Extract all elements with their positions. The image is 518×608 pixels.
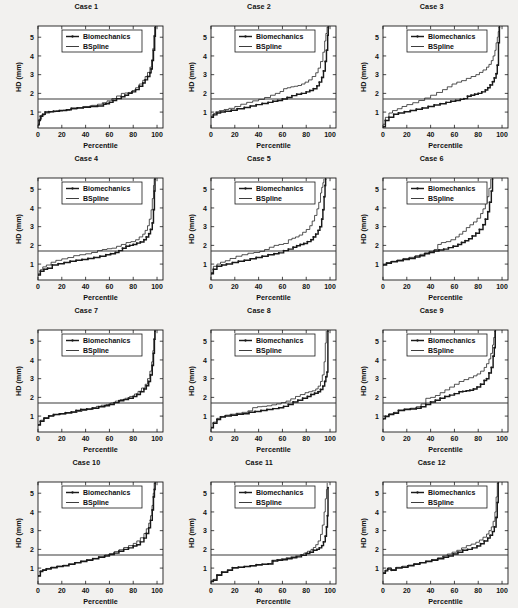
- y-tick-label: 3: [30, 375, 34, 382]
- series-marker: [323, 381, 325, 383]
- y-tick-label: 3: [30, 223, 34, 230]
- y-tick-label: 4: [203, 53, 207, 60]
- series-marker: [325, 49, 327, 51]
- legend-label: BSpline: [83, 43, 109, 51]
- series-marker: [255, 104, 257, 106]
- panel-title: Case 7: [0, 306, 173, 315]
- x-tick-label: 80: [129, 283, 137, 290]
- x-tick-label: 40: [254, 587, 262, 594]
- series-marker: [153, 209, 155, 211]
- legend-label: BSpline: [256, 195, 282, 203]
- series-marker: [497, 64, 499, 66]
- series-marker: [324, 535, 326, 537]
- series-marker: [150, 229, 152, 231]
- panel-title: Case 1: [0, 2, 173, 11]
- series-marker: [480, 543, 482, 545]
- series-marker: [323, 196, 325, 198]
- series-marker: [443, 556, 445, 558]
- y-tick-label: 4: [30, 509, 34, 516]
- y-tick-label: 2: [203, 394, 207, 401]
- series-marker: [148, 233, 150, 235]
- panel-title: Case 3: [345, 2, 518, 11]
- x-tick-label: 100: [151, 435, 163, 442]
- x-tick-label: 60: [278, 283, 286, 290]
- series-marker: [312, 88, 314, 90]
- series-marker: [224, 110, 226, 112]
- x-axis-label: Percentile: [83, 293, 117, 302]
- series-marker: [404, 111, 406, 113]
- series-marker: [124, 94, 126, 96]
- series-marker: [255, 257, 257, 259]
- series-marker: [326, 371, 328, 373]
- series-marker: [484, 540, 486, 542]
- series-marker: [325, 376, 327, 378]
- series-marker: [327, 26, 329, 28]
- x-tick-label: 20: [403, 283, 411, 290]
- series-marker: [319, 389, 321, 391]
- series-marker: [267, 254, 269, 256]
- series-marker: [145, 236, 147, 238]
- series-marker: [122, 247, 124, 249]
- panel-case-1: Case 102040608010012345PercentileHD (mm)…: [0, 0, 173, 152]
- series-marker: [484, 380, 486, 382]
- x-tick-label: 60: [106, 131, 114, 138]
- x-axis-label: Percentile: [429, 445, 463, 454]
- series-marker: [148, 381, 150, 383]
- x-tick-label: 0: [209, 435, 213, 442]
- y-tick-label: 4: [30, 205, 34, 212]
- panel-case-12: Case 1202040608010012345PercentileHD (mm…: [345, 456, 518, 608]
- series-marker: [287, 404, 289, 406]
- series-marker: [487, 211, 489, 213]
- y-axis-label: HD (mm): [187, 213, 196, 244]
- panel-case-8: Case 802040608010012345PercentileHD (mm)…: [173, 304, 346, 456]
- y-tick-label: 4: [375, 205, 379, 212]
- panel-case-2: Case 202040608010012345PercentileHD (mm)…: [173, 0, 346, 152]
- y-tick-label: 2: [375, 394, 379, 401]
- y-axis-label: HD (mm): [359, 213, 368, 244]
- y-axis-label: HD (mm): [359, 517, 368, 548]
- series-marker: [497, 502, 499, 504]
- x-axis-label: Percentile: [256, 445, 290, 454]
- x-tick-label: 80: [475, 587, 483, 594]
- y-tick-label: 1: [375, 565, 379, 572]
- series-marker: [322, 385, 324, 387]
- series-marker: [467, 95, 469, 97]
- series-marker: [48, 111, 50, 113]
- y-tick-label: 3: [203, 223, 207, 230]
- x-tick-label: 20: [231, 587, 239, 594]
- legend-label: BSpline: [428, 43, 454, 51]
- x-tick-label: 20: [58, 587, 66, 594]
- series-marker: [440, 103, 442, 105]
- series-marker: [454, 393, 456, 395]
- series-marker: [494, 347, 496, 349]
- series-marker: [322, 209, 324, 211]
- y-tick-label: 3: [30, 71, 34, 78]
- y-tick-label: 5: [30, 338, 34, 345]
- series-marker: [318, 81, 320, 83]
- series-marker: [438, 249, 440, 251]
- x-axis-label: Percentile: [256, 293, 290, 302]
- series-marker: [292, 401, 294, 403]
- x-tick-label: 40: [82, 587, 90, 594]
- x-tick-label: 60: [451, 587, 459, 594]
- series-marker: [491, 366, 493, 368]
- y-tick-label: 1: [375, 413, 379, 420]
- panel-case-9: Case 902040608010012345PercentileHD (mm)…: [345, 304, 518, 456]
- series-marker: [492, 531, 494, 533]
- series-marker: [47, 267, 49, 269]
- series-marker: [476, 386, 478, 388]
- y-tick-label: 3: [203, 71, 207, 78]
- legend-label: Biomechanics: [83, 33, 130, 40]
- series-marker: [449, 394, 451, 396]
- series-marker: [300, 92, 302, 94]
- legend-marker: [71, 35, 73, 37]
- series-marker: [261, 103, 263, 105]
- y-tick-label: 3: [375, 527, 379, 534]
- series-marker: [266, 409, 268, 411]
- series-marker: [322, 70, 324, 72]
- series-marker: [393, 113, 395, 115]
- y-tick-label: 3: [203, 527, 207, 534]
- panel-title: Case 4: [0, 154, 173, 163]
- y-tick-label: 4: [203, 357, 207, 364]
- series-marker: [51, 264, 53, 266]
